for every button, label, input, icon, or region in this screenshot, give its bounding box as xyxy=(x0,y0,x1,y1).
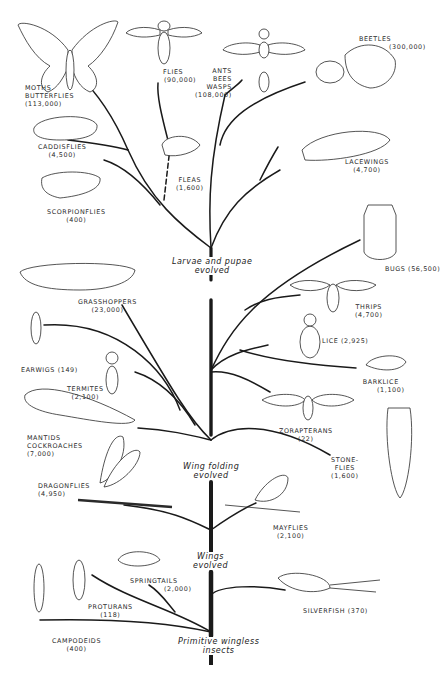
label-thrips: THRIPS (4,700) xyxy=(355,303,382,319)
label-line: (2,000) xyxy=(130,585,191,593)
stage-line2: evolved xyxy=(183,471,239,480)
label-line: FLEAS xyxy=(176,176,203,184)
label-line: (7,000) xyxy=(27,450,83,458)
label-line: (400) xyxy=(47,216,106,224)
label-campodeids: CAMPODEIDS (400) xyxy=(52,637,101,653)
label-line: (22) xyxy=(279,435,333,443)
beetle-illustration xyxy=(316,45,395,88)
label-line: DRAGONFLIES xyxy=(38,482,90,490)
label-fleas: FLEAS (1,600) xyxy=(176,176,203,192)
label-line: (1,600) xyxy=(176,184,203,192)
label-scorpionflies: SCORPIONFLIES (400) xyxy=(47,208,106,224)
label-ants-bees-wasps: ANTS BEES WASPS (108,000) xyxy=(195,67,232,99)
label-line: (4,700) xyxy=(345,166,389,174)
label-line: (90,000) xyxy=(150,76,196,84)
grasshopper-illustration xyxy=(20,263,135,290)
lacewing-illustration xyxy=(302,131,390,160)
scorpionfly-illustration xyxy=(42,172,101,198)
louse-illustration xyxy=(300,314,320,358)
stage-label-primitive: Primitive wingless insects xyxy=(178,637,259,655)
label-beetles: BEETLES (300,000) xyxy=(359,35,426,51)
label-line: FLIES xyxy=(331,464,359,472)
label-caddisflies: CADDISFLIES (4,500) xyxy=(38,143,86,159)
label-line: BUTTERFLIES xyxy=(25,92,74,100)
flea-illustration xyxy=(162,136,200,155)
label-line: WASPS xyxy=(195,83,232,91)
label-line: THRIPS xyxy=(355,303,382,311)
label-line: (108,000) xyxy=(195,91,232,99)
label-line: LICE (2,925) xyxy=(322,337,368,345)
stage-line1: Larvae and pupae xyxy=(172,257,252,266)
stage-line2: evolved xyxy=(172,266,252,275)
insect-phylogeny-diagram: Larvae and pupae evolved Wing folding ev… xyxy=(0,0,446,676)
label-line: (23,000) xyxy=(78,306,137,314)
label-barklice: BARKLICE (1,100) xyxy=(357,378,404,394)
stage-line2: evolved xyxy=(193,561,228,570)
zorapteran-illustration xyxy=(262,394,354,420)
label-line: ZORAPTERANS xyxy=(279,427,333,435)
label-line: (400) xyxy=(52,645,101,653)
label-line: (300,000) xyxy=(359,43,426,51)
label-line: (2,100) xyxy=(67,393,104,401)
fly-illustration xyxy=(126,21,202,64)
springtail-illustration xyxy=(118,552,160,566)
label-line: TERMITES xyxy=(67,385,104,393)
moth-illustration xyxy=(18,21,118,92)
stage-line1: Wings xyxy=(193,552,228,561)
label-line: PROTURANS xyxy=(88,603,133,611)
stage-label-wing-folding: Wing folding evolved xyxy=(183,462,239,480)
stage-label-larvae-pupae: Larvae and pupae evolved xyxy=(172,257,252,275)
stage-line1: Wing folding xyxy=(183,462,239,471)
label-moths-butterflies: MOTHS BUTTERFLIES (113,000) xyxy=(25,84,74,108)
label-line: SILVERFISH (370) xyxy=(303,607,368,615)
label-line: SCORPIONFLIES xyxy=(47,208,106,216)
bug-illustration xyxy=(364,205,396,260)
label-line: FLIES xyxy=(150,68,196,76)
label-proturans: PROTURANS (118) xyxy=(88,603,133,619)
label-mayflies: MAYFLIES (2,100) xyxy=(273,524,308,540)
label-earwigs: EARWIGS (149) xyxy=(21,366,78,374)
label-line: BARKLICE xyxy=(357,378,404,386)
termite-illustration xyxy=(106,352,118,394)
caddisfly-illustration xyxy=(34,117,97,140)
label-line: MANTIDS xyxy=(27,434,83,442)
label-line: CADDISFLIES xyxy=(38,143,86,151)
label-silverfish: SILVERFISH (370) xyxy=(303,607,368,615)
label-line: BEES xyxy=(195,75,232,83)
label-line: SPRINGTAILS xyxy=(130,577,191,585)
label-line: MAYFLIES xyxy=(273,524,308,532)
branches-wings xyxy=(124,503,256,530)
stage-line1: Primitive wingless xyxy=(178,637,259,646)
label-dragonflies: DRAGONFLIES (4,950) xyxy=(38,482,90,498)
label-line: (2,100) xyxy=(273,532,308,540)
label-lice: LICE (2,925) xyxy=(322,337,368,345)
label-line: BEETLES xyxy=(359,35,426,43)
label-line: GRASSHOPPERS xyxy=(78,298,137,306)
label-bugs: BUGS (56,500) xyxy=(385,265,440,273)
mayfly-illustration xyxy=(225,475,300,512)
stage-label-wings: Wings evolved xyxy=(193,552,228,570)
label-grasshoppers: GRASSHOPPERS (23,000) xyxy=(78,298,137,314)
trunk xyxy=(209,248,213,665)
dragonfly-illustration xyxy=(78,436,172,507)
label-stoneflies: STONE- FLIES (1,600) xyxy=(331,456,359,480)
label-zorapterans: ZORAPTERANS (22) xyxy=(279,427,333,443)
silverfish-illustration xyxy=(278,573,380,592)
barklouse-illustration xyxy=(366,356,406,370)
label-line: STONE- xyxy=(331,456,359,464)
label-flies: FLIES (90,000) xyxy=(150,68,196,84)
label-line: ANTS xyxy=(195,67,232,75)
label-line: BUGS (56,500) xyxy=(385,265,440,273)
label-line: (4,700) xyxy=(355,311,382,319)
label-lacewings: LACEWINGS (4,700) xyxy=(345,158,389,174)
campodeid-illustration xyxy=(34,564,44,612)
wasp-illustration xyxy=(223,29,305,92)
label-mantids-cockroaches: MANTIDS COCKROACHES (7,000) xyxy=(27,434,83,458)
proturan-illustration xyxy=(73,560,85,600)
label-line: (113,000) xyxy=(25,100,74,108)
stonefly-illustration xyxy=(387,408,412,498)
label-line: (118) xyxy=(88,611,133,619)
label-line: LACEWINGS xyxy=(345,158,389,166)
label-line: EARWIGS (149) xyxy=(21,366,78,374)
stage-line2: insects xyxy=(178,646,259,655)
